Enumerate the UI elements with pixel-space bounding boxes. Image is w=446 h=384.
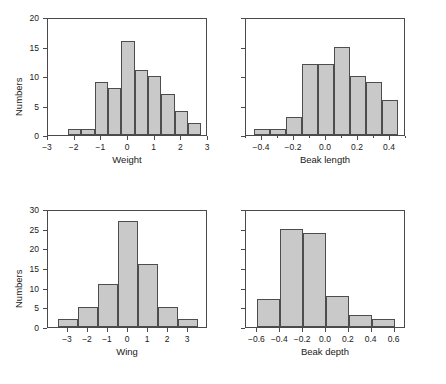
histogram-bar	[188, 123, 201, 135]
x-axis-tick-label: 0	[112, 143, 142, 152]
x-axis-tick	[74, 136, 75, 140]
x-axis-title-wing: Wing	[47, 347, 207, 357]
histogram-bar	[326, 296, 349, 327]
plot-area-wing	[47, 210, 207, 328]
panel-beak-length: −0.4−0.20.00.20.4 Beak length	[223, 0, 446, 192]
histogram-bar	[161, 94, 174, 135]
plot-area-beak-length	[245, 18, 405, 136]
histogram-bar	[175, 111, 188, 135]
y-axis-tick	[43, 77, 47, 78]
plot-area-weight	[47, 18, 207, 136]
x-axis-tick-label: −2	[59, 143, 89, 152]
x-axis-tick-label: 1	[139, 143, 169, 152]
histogram-bar	[382, 100, 398, 135]
y-axis-tick	[241, 107, 245, 108]
y-axis-tick	[241, 328, 245, 329]
y-axis-tick-label: 20	[13, 14, 39, 23]
x-axis-minor-tick	[277, 136, 278, 138]
y-axis-tick	[241, 249, 245, 250]
x-axis-title-beak-depth: Beak depth	[245, 347, 405, 357]
y-axis-tick	[43, 210, 47, 211]
x-axis-tick	[371, 328, 372, 332]
histogram-bar	[303, 233, 326, 327]
histogram-bar	[349, 315, 372, 327]
y-axis-tick-label: 30	[13, 206, 39, 215]
x-axis-tick	[357, 136, 358, 140]
histogram-bar	[366, 82, 382, 135]
panel-weight: Numbers 05101520 −3−2−10123 Weight	[0, 0, 223, 192]
histogram-bar	[68, 129, 81, 135]
panel-beak-depth: −0.6−0.4−0.20.00.20.40.6 Beak depth	[223, 192, 446, 384]
histogram-bar	[280, 229, 303, 327]
histogram-bar	[95, 82, 108, 135]
y-axis-tick-label: 10	[13, 73, 39, 82]
x-axis-tick	[394, 328, 395, 332]
y-axis-tick	[43, 249, 47, 250]
y-axis-tick	[43, 18, 47, 19]
histogram-bar	[121, 41, 134, 135]
histogram-bar	[148, 76, 161, 135]
bar-group-beak-depth	[246, 211, 404, 327]
x-axis-tick	[302, 328, 303, 332]
histogram-bar	[158, 307, 178, 327]
x-axis-tick	[47, 136, 48, 140]
panel-wing: Numbers 051015202530 −3−2−10123 Wing	[0, 192, 223, 384]
x-axis-tick	[325, 328, 326, 332]
y-axis-tick-label: 15	[13, 265, 39, 274]
x-axis-tick	[100, 136, 101, 140]
histogram-bar	[78, 307, 98, 327]
x-axis-tick	[154, 136, 155, 140]
histogram-bar	[118, 221, 138, 327]
y-axis-tick	[241, 77, 245, 78]
y-axis-tick-label: 20	[13, 245, 39, 254]
x-axis-tick	[207, 136, 208, 140]
histogram-bar	[350, 76, 366, 135]
x-axis-tick-label: 3	[172, 335, 202, 344]
x-axis-title-weight: Weight	[47, 155, 207, 165]
x-axis-tick-label: 3	[192, 143, 222, 152]
y-axis-tick	[43, 308, 47, 309]
bar-group-wing	[48, 211, 206, 327]
x-axis-tick	[107, 328, 108, 332]
histogram-bar	[178, 319, 198, 327]
x-axis-tick	[67, 328, 68, 332]
y-axis-tick	[43, 107, 47, 108]
plot-area-beak-depth	[245, 210, 405, 328]
x-axis-tick	[87, 328, 88, 332]
x-axis-tick	[167, 328, 168, 332]
x-axis-tick-label: −1	[85, 143, 115, 152]
x-axis-tick	[293, 136, 294, 140]
histogram-bar	[270, 129, 286, 135]
bar-group-beak-length	[246, 19, 404, 135]
x-axis-tick	[256, 328, 257, 332]
histogram-bar	[318, 64, 334, 135]
y-axis-tick-label: 0	[13, 324, 39, 333]
y-axis-tick	[241, 308, 245, 309]
histogram-bar	[334, 47, 350, 136]
y-axis-tick	[241, 269, 245, 270]
histogram-bar	[81, 129, 94, 135]
x-axis-tick	[279, 328, 280, 332]
histogram-bar	[257, 299, 280, 327]
x-axis-tick-label: 2	[165, 143, 195, 152]
y-axis-tick	[43, 269, 47, 270]
bar-group-weight	[48, 19, 206, 135]
histogram-bar	[98, 284, 118, 327]
y-axis-tick	[241, 18, 245, 19]
y-axis-tick	[241, 289, 245, 290]
y-axis-tick-label: 5	[13, 103, 39, 112]
x-axis-tick	[325, 136, 326, 140]
y-axis-tick	[43, 48, 47, 49]
y-axis-tick-label: 15	[13, 44, 39, 53]
x-axis-tick-label: 0.0	[310, 143, 340, 152]
y-axis-tick-label: 0	[13, 132, 39, 141]
histogram-bar	[286, 117, 302, 135]
x-axis-tick-label: 0.4	[374, 143, 404, 152]
x-axis-minor-tick	[309, 136, 310, 138]
histogram-bar	[138, 264, 158, 327]
histogram-bar	[58, 319, 78, 327]
x-axis-tick	[127, 136, 128, 140]
histogram-bar	[135, 70, 148, 135]
x-axis-minor-tick	[245, 136, 246, 138]
x-axis-tick	[147, 328, 148, 332]
